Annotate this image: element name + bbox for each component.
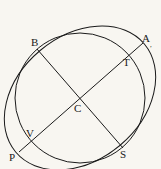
geometry-diagram: A , B C T V P S xyxy=(0,0,161,169)
label-t: T xyxy=(123,56,130,68)
label-a-mark: , xyxy=(150,41,152,49)
diagram-canvas: A , B C T V P S xyxy=(0,0,161,169)
label-c: C xyxy=(74,102,81,114)
label-s: S xyxy=(120,148,126,160)
ellipse xyxy=(0,0,161,169)
label-a: A xyxy=(142,32,150,44)
label-b: B xyxy=(31,36,38,48)
label-v: V xyxy=(26,127,34,139)
label-p: P xyxy=(9,151,15,163)
